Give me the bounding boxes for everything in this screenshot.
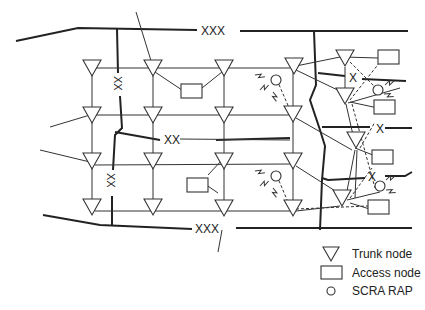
- trunk-node-legend-icon: [323, 247, 339, 261]
- legend: Trunk node Access node SCRA RAP: [321, 247, 421, 298]
- network-diagram: XXX XXX XX XX XX X X X Trunk node Access…: [0, 0, 425, 310]
- right-x-middle-label: X: [376, 122, 384, 136]
- scra-rap-legend-icon: [327, 287, 335, 295]
- right-x-lower-label: X: [368, 170, 376, 184]
- grid-links: [40, 12, 400, 252]
- middle-link-label: XX: [164, 133, 180, 147]
- right-x-upper-label: X: [349, 71, 357, 85]
- legend-access-node: Access node: [352, 266, 421, 280]
- legend-trunk-node: Trunk node: [352, 247, 413, 261]
- left-upper-vertical-label: XX: [112, 76, 124, 91]
- legend-scra-rap: SCRA RAP: [352, 284, 413, 298]
- bottom-trunk-label: XXX: [195, 222, 219, 236]
- top-trunk-label: XXX: [201, 24, 225, 38]
- access-nodes: [181, 50, 399, 214]
- left-lower-vertical-label: XX: [105, 173, 117, 188]
- access-node-legend-icon: [321, 266, 342, 279]
- backbone-lines: [16, 28, 412, 230]
